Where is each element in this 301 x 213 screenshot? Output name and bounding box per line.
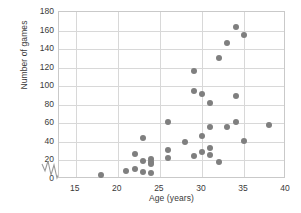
data-point: [132, 166, 138, 172]
data-point: [233, 24, 239, 30]
data-point: [241, 32, 247, 38]
data-point: [224, 124, 230, 130]
data-point: [140, 169, 146, 175]
data-point: [216, 159, 222, 165]
scatter-chart: Number of games Age (years) 020406080100…: [0, 0, 301, 213]
gridline-horizontal: [59, 31, 284, 32]
gridline-horizontal: [59, 142, 284, 143]
x-tick-label: 25: [147, 183, 171, 193]
data-point: [266, 122, 272, 128]
data-point: [191, 153, 197, 159]
data-point: [199, 149, 205, 155]
plot-area: [58, 11, 285, 178]
gridline-horizontal: [59, 68, 284, 69]
data-point: [207, 145, 213, 151]
x-tick-label: 30: [189, 183, 213, 193]
data-point: [148, 161, 154, 167]
gridline-horizontal: [59, 160, 284, 161]
data-point: [182, 139, 188, 145]
data-point: [165, 147, 171, 153]
x-tick-label: 20: [105, 183, 129, 193]
gridline-vertical: [118, 12, 119, 177]
data-point: [191, 88, 197, 94]
x-tick-label: 40: [273, 183, 297, 193]
data-point: [123, 168, 129, 174]
data-point: [191, 68, 197, 74]
data-point: [224, 40, 230, 46]
data-point: [140, 158, 146, 164]
gridline-vertical: [76, 12, 77, 177]
data-point: [233, 119, 239, 125]
data-point: [233, 93, 239, 99]
gridline-horizontal: [59, 49, 284, 50]
data-point: [207, 124, 213, 130]
data-point: [207, 152, 213, 158]
data-point: [199, 91, 205, 97]
x-tick-label: 15: [63, 183, 87, 193]
data-point: [241, 138, 247, 144]
data-point: [140, 135, 146, 141]
gridline-horizontal: [59, 86, 284, 87]
data-point: [148, 170, 154, 176]
data-point: [216, 55, 222, 61]
gridline-horizontal: [59, 123, 284, 124]
data-point: [165, 119, 171, 125]
data-point: [199, 133, 205, 139]
data-point: [132, 151, 138, 157]
gridline-horizontal: [59, 105, 284, 106]
data-point: [98, 172, 104, 178]
gridline-vertical: [160, 12, 161, 177]
x-tick-label: 35: [231, 183, 255, 193]
data-point: [165, 155, 171, 161]
